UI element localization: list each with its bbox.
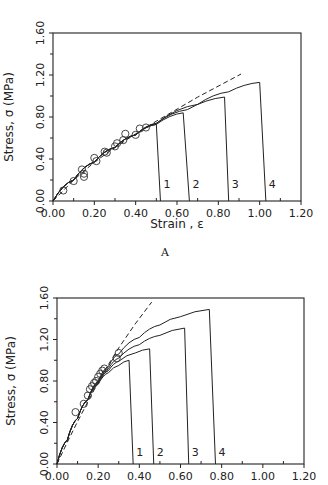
series-4 (57, 309, 215, 464)
curve-label-4: 4 (269, 178, 276, 191)
x-tick-label: 1.20 (289, 207, 314, 220)
y-axis-label: Stress, σ (MPa) (4, 336, 18, 426)
chart-b: 0.000.200.400.600.801.001.200.000.400.80… (4, 286, 316, 483)
panel-label-a: A (160, 246, 170, 259)
x-axis-label: Strain , ε (150, 217, 203, 231)
y-tick-label: 1.60 (38, 286, 51, 311)
curve-label-1: 1 (136, 446, 143, 459)
x-tick-label: 1.00 (247, 207, 272, 220)
x-tick-label: 1.00 (251, 470, 276, 483)
x-tick-label: 0.80 (209, 470, 234, 483)
chart-a: 0.000.200.400.600.801.001.200.000.400.80… (2, 21, 313, 231)
figure: 0.000.200.400.600.801.001.200.000.400.80… (0, 0, 328, 485)
y-tick-label: 1.60 (34, 21, 47, 46)
y-tick-label: 1.20 (34, 63, 47, 88)
y-axis-label: Stress, σ (MPa) (2, 72, 16, 162)
y-tick-label: 0.80 (34, 105, 47, 130)
curve-label-3: 3 (192, 446, 199, 459)
curve-label-1: 1 (163, 178, 170, 191)
series-fit-dashed (57, 302, 152, 464)
curve-label-2: 2 (157, 446, 164, 459)
x-tick-label: 0.80 (206, 207, 231, 220)
data-point-marker (60, 187, 67, 194)
plot-frame (57, 298, 304, 464)
x-tick-label: 0.20 (82, 207, 107, 220)
data-point-marker (122, 130, 129, 137)
series-fit-dashed (53, 74, 241, 201)
y-tick-label: 0.00 (34, 189, 47, 214)
curve-label-4: 4 (218, 446, 225, 459)
y-tick-label: 0.00 (38, 452, 51, 477)
plot-frame (53, 33, 301, 201)
series-1 (53, 124, 160, 201)
data-point-marker (72, 409, 79, 416)
x-tick-label: 0.20 (86, 470, 111, 483)
curve-label-2: 2 (192, 178, 199, 191)
y-tick-label: 0.80 (38, 369, 51, 394)
y-tick-label: 0.40 (34, 147, 47, 172)
y-tick-label: 0.40 (38, 410, 51, 435)
x-tick-label: 0.40 (123, 207, 148, 220)
x-tick-label: 0.60 (168, 470, 193, 483)
y-tick-label: 1.20 (38, 327, 51, 352)
series-3 (53, 97, 229, 201)
curve-label-3: 3 (232, 178, 239, 191)
x-tick-label: 0.40 (127, 470, 152, 483)
x-tick-label: 1.20 (292, 470, 317, 483)
